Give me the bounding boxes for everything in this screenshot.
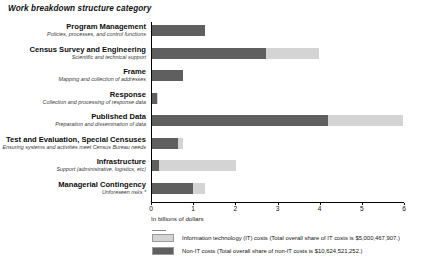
category-label-group: Census Survey and EngineeringScientific … [0,45,146,61]
category-name: Infrastructure [0,157,146,166]
bar-segment-non-it [152,138,178,149]
chart-container: Work breakdown structure category Progra… [0,0,436,268]
bar-segment-it [193,183,205,194]
stacked-bar [152,93,158,104]
legend-label: Information technology (IT) costs (Total… [182,235,400,241]
category-label-group: Test and Evaluation, Special CensusesEns… [0,135,146,151]
legend-divider [152,230,166,231]
bar-row: Managerial ContingencyUnforeseen risks * [0,180,436,203]
bar-segment-non-it [152,70,183,81]
x-tick-label: 4 [318,205,322,212]
category-description: Mapping and collection of addresses [0,76,146,83]
category-name: Response [0,90,146,99]
bar-segment-it [328,115,403,126]
category-description: Scientific and technical support [0,54,146,61]
stacked-bar [152,138,183,149]
category-description: Ensuring systems and activities meet Cen… [0,144,146,151]
bar-segment-non-it [152,183,193,194]
bar-row: Published DataPreparation and disseminat… [0,112,436,135]
category-description: Support (administrative, logistics, etc) [0,166,146,173]
x-tick-label: 2 [233,205,237,212]
category-label-group: ResponseCollection and processing of res… [0,90,146,106]
legend-item[interactable]: Information technology (IT) costs (Total… [152,232,436,244]
x-tick-label: 5 [360,205,364,212]
category-label-group: InfrastructureSupport (administrative, l… [0,157,146,173]
bar-row: ResponseCollection and processing of res… [0,90,436,113]
x-tick-label: 3 [276,205,280,212]
bar-segment-it [178,138,183,149]
category-label-group: Managerial ContingencyUnforeseen risks * [0,180,146,196]
legend-swatch-nonit [152,247,174,256]
x-tick-label: 6 [402,205,406,212]
stacked-bar [152,70,183,81]
category-description: Unforeseen risks * [0,189,146,196]
x-axis-label: In billions of dollars [151,215,204,222]
x-tick-label: 0 [149,205,153,212]
category-description: Policies, processes, and control functio… [0,31,146,38]
bar-row: Program ManagementPolicies, processes, a… [0,22,436,45]
legend-swatch-it [152,234,174,243]
legend-label: Non-IT costs (Total overall share of non… [182,248,363,254]
category-description: Collection and processing of response da… [0,99,146,106]
bar-segment-it [159,160,236,171]
category-name: Census Survey and Engineering [0,45,146,54]
category-label-group: FrameMapping and collection of addresses [0,67,146,83]
x-axis-ticks: 0123456 [0,203,436,215]
category-name: Test and Evaluation, Special Censuses [0,135,146,144]
bar-row: FrameMapping and collection of addresses [0,67,436,90]
category-name: Managerial Contingency [0,180,146,189]
stacked-bar [152,115,403,126]
bar-row: Test and Evaluation, Special CensusesEns… [0,135,436,158]
legend-item[interactable]: Non-IT costs (Total overall share of non… [152,245,436,257]
bar-segment-non-it [152,115,328,126]
category-name: Program Management [0,22,146,31]
category-label-group: Program ManagementPolicies, processes, a… [0,22,146,38]
chart-title: Work breakdown structure category [8,4,151,13]
stacked-bar [152,48,319,59]
bar-segment-it [266,48,320,59]
chart-legend: Information technology (IT) costs (Total… [152,232,436,258]
stacked-bar [152,160,236,171]
bar-segment-non-it [152,160,159,171]
category-name: Frame [0,67,146,76]
category-name: Published Data [0,112,146,121]
bar-segment-non-it [152,48,266,59]
bar-row: InfrastructureSupport (administrative, l… [0,157,436,180]
bar-segment-non-it [152,25,205,36]
x-tick-label: 1 [191,205,195,212]
stacked-bar [152,25,205,36]
category-description: Preparation and dissemination of data [0,121,146,128]
stacked-bar [152,183,205,194]
bar-row: Census Survey and EngineeringScientific … [0,45,436,68]
bar-segment-it [157,93,158,104]
category-label-group: Published DataPreparation and disseminat… [0,112,146,128]
bar-rows: Program ManagementPolicies, processes, a… [0,22,436,202]
